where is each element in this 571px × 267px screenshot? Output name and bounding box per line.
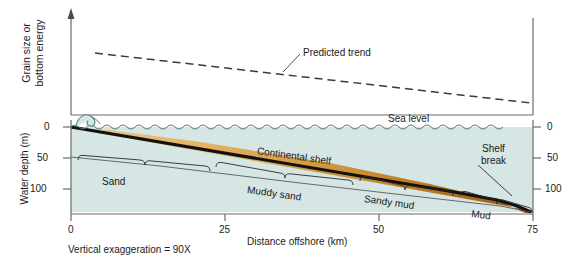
depth-tick-right-100: 100 bbox=[545, 183, 562, 194]
distance-tick-25: 25 bbox=[219, 224, 230, 235]
distance-tick-0: 0 bbox=[68, 224, 74, 235]
shelf-profile-diagram bbox=[0, 0, 571, 267]
top-panel-y-axis-label: Grain size or bottom energy bbox=[20, 0, 46, 108]
top-panel-y-axis bbox=[68, 8, 75, 115]
depth-tick-left-50: 50 bbox=[37, 152, 48, 163]
depth-tick-left-0: 0 bbox=[44, 121, 50, 132]
depth-tick-right-0: 0 bbox=[547, 121, 553, 132]
predicted-trend-line bbox=[95, 53, 531, 103]
depth-tick-left-100: 100 bbox=[30, 183, 47, 194]
sediment-label-mud: Mud bbox=[471, 208, 492, 221]
depth-axis-left bbox=[63, 120, 71, 214]
distance-axis-label: Distance offshore (km) bbox=[247, 236, 347, 247]
depth-tick-right-50: 50 bbox=[547, 152, 558, 163]
y-axis-label-line2: bottom energy bbox=[33, 0, 46, 108]
sediment-label-sand: Sand bbox=[102, 176, 125, 187]
vertical-exaggeration-note: Vertical exaggeration = 90X bbox=[68, 244, 191, 255]
figure-container bbox=[0, 0, 571, 267]
water-depth-axis-label: Water depth (m) bbox=[19, 119, 30, 219]
shelf-break-line1: Shelf bbox=[481, 143, 506, 155]
bottom-panel bbox=[63, 115, 541, 221]
shelf-break-label: Shelf break bbox=[481, 143, 506, 167]
predicted-trend-label: Predicted trend bbox=[303, 47, 371, 58]
breaking-wave-icon bbox=[76, 115, 100, 126]
sea-level-label: Sea level bbox=[388, 113, 429, 124]
distance-tick-75: 75 bbox=[527, 224, 538, 235]
y-axis-label-line1: Grain size or bbox=[20, 0, 33, 108]
top-panel bbox=[68, 8, 533, 115]
shelf-break-line2: break bbox=[481, 155, 506, 167]
distance-axis bbox=[71, 214, 533, 221]
predicted-trend-leader-line bbox=[283, 54, 300, 72]
depth-axis-right bbox=[533, 120, 541, 214]
distance-tick-50: 50 bbox=[373, 224, 384, 235]
